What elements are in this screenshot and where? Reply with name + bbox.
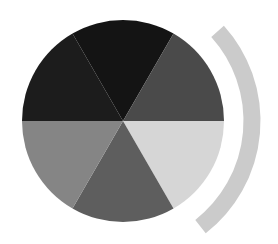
pie-slices bbox=[22, 20, 224, 222]
chart-canvas bbox=[0, 0, 278, 244]
pie-chart bbox=[0, 0, 278, 244]
